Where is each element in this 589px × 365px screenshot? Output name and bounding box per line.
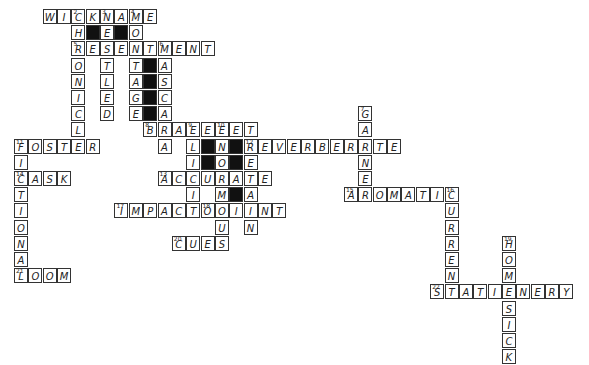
- letter-cell[interactable]: R: [358, 139, 372, 154]
- letter-cell[interactable]: I: [14, 203, 28, 218]
- letter-cell[interactable]: R: [344, 139, 358, 154]
- letter-cell[interactable]: I: [186, 155, 200, 170]
- letter-cell[interactable]: E9: [186, 122, 200, 137]
- letter-cell[interactable]: E: [201, 236, 215, 251]
- letter-cell[interactable]: R: [158, 122, 172, 137]
- letter-cell[interactable]: E: [129, 106, 143, 121]
- letter-cell[interactable]: T: [57, 139, 71, 154]
- letter-cell[interactable]: O: [215, 203, 229, 218]
- letter-cell[interactable]: H: [71, 25, 85, 40]
- letter-cell[interactable]: A: [459, 284, 473, 299]
- letter-cell[interactable]: S: [43, 139, 57, 154]
- letter-cell[interactable]: E: [114, 41, 128, 56]
- letter-cell[interactable]: N: [129, 41, 143, 56]
- letter-cell[interactable]: I: [57, 9, 71, 24]
- letter-cell[interactable]: K: [57, 171, 71, 186]
- letter-cell[interactable]: I: [14, 155, 28, 170]
- letter-cell[interactable]: T: [129, 58, 143, 73]
- letter-cell[interactable]: C20: [172, 236, 186, 251]
- letter-cell[interactable]: T: [14, 187, 28, 202]
- letter-cell[interactable]: N: [244, 220, 258, 235]
- letter-cell[interactable]: E: [287, 139, 301, 154]
- letter-cell[interactable]: A: [14, 252, 28, 267]
- letter-cell[interactable]: R: [445, 236, 459, 251]
- letter-cell[interactable]: K: [502, 349, 516, 364]
- letter-cell[interactable]: I: [488, 284, 502, 299]
- letter-cell[interactable]: R: [358, 187, 372, 202]
- letter-cell[interactable]: E: [172, 41, 186, 56]
- letter-cell[interactable]: T: [201, 41, 215, 56]
- letter-cell[interactable]: E: [502, 284, 516, 299]
- letter-cell[interactable]: N3: [100, 9, 114, 24]
- letter-cell[interactable]: L: [186, 139, 200, 154]
- letter-cell[interactable]: S: [215, 236, 229, 251]
- letter-cell[interactable]: S: [43, 171, 57, 186]
- letter-cell[interactable]: C: [158, 90, 172, 105]
- letter-cell[interactable]: N: [358, 155, 372, 170]
- letter-cell[interactable]: E: [445, 252, 459, 267]
- letter-cell[interactable]: A: [244, 187, 258, 202]
- letter-cell[interactable]: A: [358, 122, 372, 137]
- letter-cell[interactable]: Y: [559, 284, 573, 299]
- letter-cell[interactable]: O: [215, 155, 229, 170]
- letter-cell[interactable]: O: [14, 220, 28, 235]
- letter-cell[interactable]: L: [100, 74, 114, 89]
- letter-cell[interactable]: T: [473, 284, 487, 299]
- letter-cell[interactable]: O: [43, 268, 57, 283]
- letter-cell[interactable]: G: [129, 90, 143, 105]
- letter-cell[interactable]: U: [186, 236, 200, 251]
- letter-cell[interactable]: A: [114, 9, 128, 24]
- letter-cell[interactable]: E: [143, 9, 157, 24]
- letter-cell[interactable]: I: [229, 203, 243, 218]
- letter-cell[interactable]: T: [186, 203, 200, 218]
- letter-cell[interactable]: U: [215, 220, 229, 235]
- letter-cell[interactable]: I: [186, 187, 200, 202]
- letter-cell[interactable]: B: [315, 139, 329, 154]
- letter-cell[interactable]: A: [172, 122, 186, 137]
- letter-cell[interactable]: M: [57, 268, 71, 283]
- letter-cell[interactable]: I: [71, 90, 85, 105]
- letter-cell[interactable]: E: [100, 25, 114, 40]
- letter-cell[interactable]: O: [71, 58, 85, 73]
- letter-cell[interactable]: C: [186, 171, 200, 186]
- letter-cell[interactable]: H19: [502, 236, 516, 251]
- letter-cell[interactable]: B8: [143, 122, 157, 137]
- letter-cell[interactable]: G7: [358, 106, 372, 121]
- letter-cell[interactable]: N: [445, 268, 459, 283]
- letter-cell[interactable]: A: [158, 203, 172, 218]
- letter-cell[interactable]: T: [244, 122, 258, 137]
- letter-cell[interactable]: U: [445, 203, 459, 218]
- letter-cell[interactable]: C: [71, 106, 85, 121]
- letter-cell[interactable]: N: [186, 41, 200, 56]
- letter-cell[interactable]: O: [373, 187, 387, 202]
- letter-cell[interactable]: M: [502, 268, 516, 283]
- letter-cell[interactable]: M: [387, 187, 401, 202]
- letter-cell[interactable]: E: [531, 284, 545, 299]
- letter-cell[interactable]: E: [244, 155, 258, 170]
- letter-cell[interactable]: R: [545, 284, 559, 299]
- letter-cell[interactable]: E: [387, 139, 401, 154]
- letter-cell[interactable]: V: [272, 139, 286, 154]
- letter-cell[interactable]: F11: [14, 139, 28, 154]
- letter-cell[interactable]: E10: [215, 122, 229, 137]
- letter-cell[interactable]: O: [502, 252, 516, 267]
- letter-cell[interactable]: T: [244, 171, 258, 186]
- letter-cell[interactable]: O: [129, 25, 143, 40]
- letter-cell[interactable]: A: [401, 187, 415, 202]
- letter-cell[interactable]: E: [71, 139, 85, 154]
- letter-cell[interactable]: A: [158, 58, 172, 73]
- letter-cell[interactable]: R5: [71, 41, 85, 56]
- letter-cell[interactable]: N: [215, 139, 229, 154]
- letter-cell[interactable]: R: [86, 139, 100, 154]
- letter-cell[interactable]: L: [71, 122, 85, 137]
- letter-cell[interactable]: K: [86, 9, 100, 24]
- letter-cell[interactable]: I: [244, 203, 258, 218]
- letter-cell[interactable]: O: [28, 268, 42, 283]
- letter-cell[interactable]: A: [28, 171, 42, 186]
- letter-cell[interactable]: I: [430, 187, 444, 202]
- letter-cell[interactable]: T: [416, 187, 430, 202]
- letter-cell[interactable]: S: [158, 74, 172, 89]
- letter-cell[interactable]: E: [201, 122, 215, 137]
- letter-cell[interactable]: T: [373, 139, 387, 154]
- letter-cell[interactable]: E: [258, 171, 272, 186]
